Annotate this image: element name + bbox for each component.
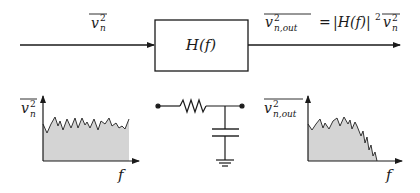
input-label: v 2 n: [89, 13, 107, 33]
svg-text:v: v: [264, 100, 272, 116]
output-rhs-transfer: |H(f)|: [333, 14, 371, 31]
input-label-sub: n: [100, 23, 106, 33]
rc-circuit: [156, 100, 244, 166]
input-label-sup: 2: [100, 13, 106, 23]
output-rhs-symbol: v: [383, 14, 391, 30]
input-label-symbol: v: [91, 15, 99, 31]
output-lhs-symbol: v: [265, 14, 273, 30]
input-y-label: v 2 n: [20, 99, 37, 119]
svg-text:2: 2: [273, 99, 279, 109]
capacitor-icon: [212, 129, 239, 136]
svg-text:v: v: [21, 100, 29, 116]
ground-icon: [216, 160, 234, 166]
output-rhs-sup: 2: [392, 13, 398, 23]
output-spectrum-plot: v 2 n,out f: [264, 96, 402, 184]
resistor-icon: [180, 100, 206, 112]
input-spectrum-plot: v 2 n f: [20, 96, 139, 184]
output-terminal: [240, 104, 244, 108]
output-equals: =: [319, 14, 331, 30]
filter-block-label: H(f): [185, 36, 216, 54]
noise-filter-diagram: v 2 n H(f) v 2 n,out = |H(f)| 2 v 2 n v …: [0, 0, 420, 193]
filter-block: H(f): [155, 20, 248, 71]
output-y-label: v 2 n,out: [264, 99, 303, 119]
output-lhs-sub: n,out: [274, 23, 298, 33]
input-x-label: f: [117, 166, 126, 184]
svg-text:n: n: [30, 109, 36, 119]
output-lhs-sup: 2: [274, 13, 280, 23]
output-x-label: f: [385, 166, 394, 184]
svg-text:2: 2: [30, 99, 36, 109]
output-rhs-sub: n: [392, 23, 398, 33]
output-label: v 2 n,out = |H(f)| 2 v 2 n: [264, 12, 400, 33]
output-rhs-power: 2: [375, 12, 381, 22]
svg-text:n,out: n,out: [273, 109, 297, 119]
